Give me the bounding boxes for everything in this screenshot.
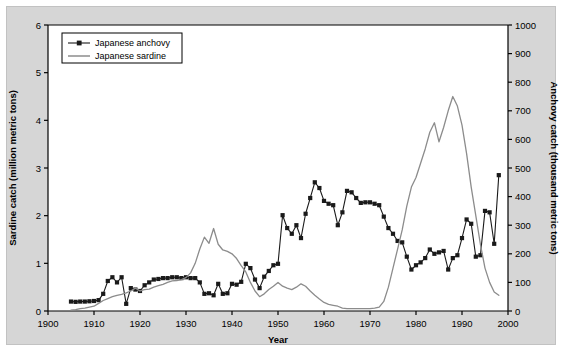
series-marker — [451, 256, 455, 260]
series-marker — [281, 213, 285, 217]
series-marker — [271, 263, 275, 267]
x-tick-label: 1990 — [451, 318, 472, 329]
series-marker — [304, 212, 308, 216]
x-tick-label: 1970 — [359, 318, 380, 329]
series-marker — [267, 269, 271, 273]
series-marker — [225, 291, 229, 295]
plot-area — [48, 25, 508, 311]
series-marker — [377, 203, 381, 207]
x-tick-label: 1960 — [313, 318, 334, 329]
series-marker — [460, 236, 464, 240]
series-marker — [350, 190, 354, 194]
y-left-tick-label: 6 — [36, 20, 41, 31]
legend-swatch-marker — [77, 41, 82, 46]
series-marker — [290, 232, 294, 236]
y-right-tick-label: 600 — [515, 134, 531, 145]
series-marker — [143, 283, 147, 287]
series-marker — [97, 298, 101, 302]
series-marker — [285, 226, 289, 230]
series-marker — [391, 232, 395, 236]
x-tick-label: 1930 — [175, 318, 196, 329]
chart-container: 1900191019201930194019501960197019801990… — [0, 0, 568, 357]
series-marker — [87, 299, 91, 303]
series-marker — [437, 250, 441, 254]
series-marker — [405, 255, 409, 259]
y-right-tick-label: 200 — [515, 248, 531, 259]
series-marker — [474, 255, 478, 259]
x-tick-label: 1900 — [37, 318, 58, 329]
series-marker — [92, 299, 96, 303]
series-marker — [469, 222, 473, 226]
y-axis-left-label: Sardine catch (million metric tons) — [7, 90, 18, 246]
series-marker — [336, 223, 340, 227]
series-marker — [327, 202, 331, 206]
y-right-tick-label: 0 — [515, 306, 520, 317]
series-marker — [345, 189, 349, 193]
series-marker — [120, 275, 124, 279]
y-right-tick-label: 700 — [515, 105, 531, 116]
series-marker — [239, 280, 243, 284]
x-tick-label: 2000 — [497, 318, 518, 329]
series-marker — [409, 267, 413, 271]
y-axis-right-label: Anchovy catch (thousand metric tons) — [549, 81, 560, 254]
series-marker — [244, 262, 248, 266]
series-marker — [331, 203, 335, 207]
y-left-tick-label: 5 — [36, 67, 41, 78]
series-marker — [497, 173, 501, 177]
y-left-tick-label: 3 — [36, 163, 41, 174]
y-left-tick-label: 2 — [36, 210, 41, 221]
series-marker — [198, 280, 202, 284]
series-marker — [202, 292, 206, 296]
series-marker — [299, 236, 303, 240]
series-marker — [400, 240, 404, 244]
series-marker — [442, 249, 446, 253]
series-marker — [432, 252, 436, 256]
series-marker — [235, 283, 239, 287]
series-marker — [382, 215, 386, 219]
series-marker — [386, 226, 390, 230]
y-left-tick-label: 1 — [36, 258, 41, 269]
x-tick-label: 1940 — [221, 318, 242, 329]
y-right-tick-label: 400 — [515, 191, 531, 202]
x-tick-label: 1910 — [83, 318, 104, 329]
y-right-tick-label: 900 — [515, 48, 531, 59]
series-marker — [465, 217, 469, 221]
series-marker — [170, 275, 174, 279]
series-marker — [483, 209, 487, 213]
series-marker — [446, 267, 450, 271]
series-marker — [101, 292, 105, 296]
x-tick-label: 1920 — [129, 318, 150, 329]
series-marker — [419, 260, 423, 264]
series-marker — [253, 277, 257, 281]
series-marker — [363, 200, 367, 204]
series-marker — [147, 280, 151, 284]
series-marker — [294, 223, 298, 227]
series-marker — [230, 282, 234, 286]
series-marker — [373, 202, 377, 206]
series-marker — [106, 279, 110, 283]
series-marker — [322, 199, 326, 203]
series-marker — [161, 276, 165, 280]
series-marker — [110, 275, 114, 279]
x-axis-label: Year — [268, 334, 288, 345]
series-marker — [340, 210, 344, 214]
chart-svg: 1900191019201930194019501960197019801990… — [0, 0, 568, 357]
series-marker — [83, 299, 87, 303]
x-tick-label: 1950 — [267, 318, 288, 329]
y-right-tick-label: 500 — [515, 163, 531, 174]
series-marker — [212, 293, 216, 297]
legend-label-anchovy: Japanese anchovy — [95, 38, 171, 48]
series-marker — [166, 276, 170, 280]
legend-label-sardine: Japanese sardine — [95, 51, 166, 61]
series-marker — [189, 276, 193, 280]
y-left-tick-label: 4 — [36, 115, 41, 126]
series-marker — [216, 282, 220, 286]
series-marker — [428, 247, 432, 251]
series-marker — [258, 286, 262, 290]
series-marker — [74, 300, 78, 304]
series-marker — [193, 276, 197, 280]
series-marker — [262, 275, 266, 279]
series-marker — [221, 292, 225, 296]
y-right-tick-label: 800 — [515, 77, 531, 88]
series-marker — [455, 253, 459, 257]
